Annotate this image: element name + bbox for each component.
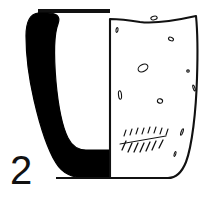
vessel-exterior-outline xyxy=(110,16,197,178)
figure-container: 2 xyxy=(0,0,209,200)
figure-number-label: 2 xyxy=(10,148,32,192)
vessel-profile-drawing: 2 xyxy=(0,0,209,200)
